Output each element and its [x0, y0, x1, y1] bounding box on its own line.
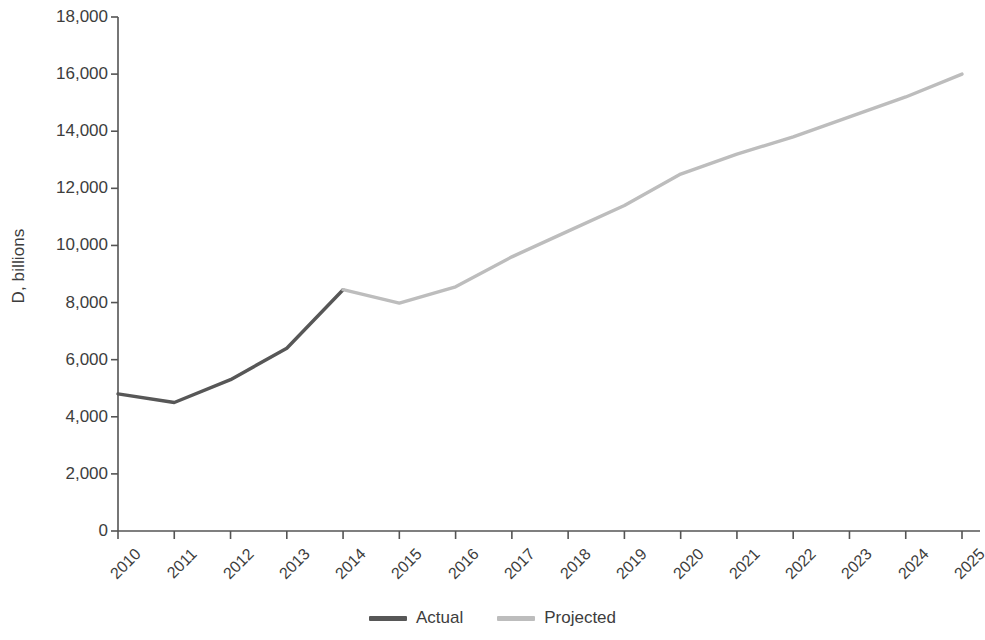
legend-swatch-projected — [497, 616, 535, 621]
line-chart: D, billions 02,0004,0006,0008,00010,0001… — [0, 0, 985, 640]
legend-label: Actual — [416, 608, 463, 628]
legend-item-projected[interactable]: Projected — [497, 608, 616, 628]
legend-swatch-actual — [369, 616, 407, 621]
y-axis-ticks — [111, 17, 118, 531]
x-axis-ticks — [118, 531, 962, 539]
data-series-group — [118, 74, 962, 402]
legend-label: Projected — [544, 608, 616, 628]
chart-legend: ActualProjected — [0, 608, 985, 628]
series-line-actual — [118, 290, 343, 403]
series-line-projected — [343, 74, 962, 303]
axes — [111, 17, 980, 539]
legend-item-actual[interactable]: Actual — [369, 608, 463, 628]
plot-area — [0, 0, 985, 640]
